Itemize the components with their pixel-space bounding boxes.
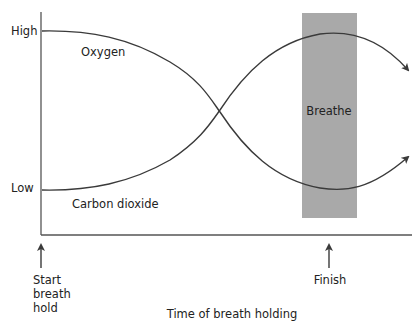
finish-label: Finish — [314, 273, 347, 287]
y-high-label: High — [11, 24, 37, 38]
x-axis-label: Time of breath holding — [166, 307, 298, 321]
start-label: Start breath hold — [33, 273, 74, 315]
start-label-line-3: hold — [33, 301, 58, 315]
y-low-label: Low — [11, 181, 34, 195]
diagram-canvas: Breathe High Low Oxygen Carbon dioxide S… — [0, 0, 418, 331]
oxygen-label: Oxygen — [81, 45, 125, 59]
breath-holding-diagram: Breathe High Low Oxygen Carbon dioxide S… — [0, 0, 418, 331]
start-label-line-1: Start — [33, 273, 62, 287]
carbon-dioxide-label: Carbon dioxide — [72, 197, 159, 211]
breathe-label: Breathe — [306, 104, 351, 118]
start-label-line-2: breath — [33, 287, 71, 301]
